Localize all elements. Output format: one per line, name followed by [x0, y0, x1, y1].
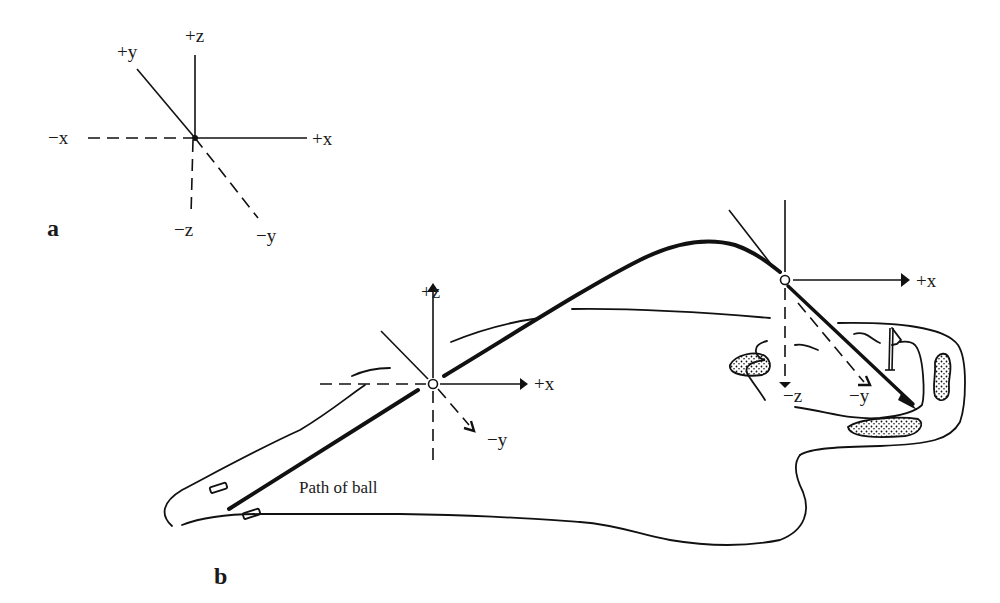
flag-icon [885, 328, 901, 370]
panel-label-a: a [47, 215, 59, 241]
label-neg-x: −x [48, 127, 69, 148]
bunker-right [934, 354, 951, 400]
launch-neg-y-arrowhead [464, 421, 474, 431]
launch-ball-origin [429, 380, 438, 389]
fairway-edge-upper-right [451, 318, 540, 342]
launch-label-pos-z: +z [421, 281, 440, 302]
golf-coordinate-diagram: +z +y −x +x −z −y a [0, 0, 1000, 603]
label-neg-y: −y [256, 225, 277, 246]
apex-axis-neg-y [798, 303, 864, 382]
launch-axis-neg-y [438, 389, 469, 425]
fairway-edge-far [572, 309, 770, 318]
label-neg-z: −z [174, 219, 193, 240]
launch-label-neg-y: −y [487, 429, 508, 450]
green-contour-2 [854, 333, 880, 343]
axis-neg-z [191, 140, 193, 215]
axis-pos-y [137, 69, 195, 138]
apex-pos-x-arrowhead [901, 273, 910, 287]
fairway-edge-upper-mid [352, 368, 390, 376]
apex-label-pos-x: +x [916, 270, 937, 291]
fairway-edge-lower [182, 455, 806, 545]
apex-label-neg-z: −z [783, 385, 802, 406]
label-pos-z: +z [185, 25, 204, 46]
axis-neg-y [195, 138, 258, 218]
label-pos-y: +y [117, 41, 138, 62]
launch-label-pos-x: +x [534, 373, 555, 394]
launch-axis-pos-y [381, 331, 428, 379]
tee-marker-left [209, 482, 227, 493]
label-pos-x: +x [312, 128, 333, 149]
origin-point [192, 135, 198, 141]
launch-pos-x-arrowhead [520, 378, 528, 390]
apex-ball-origin [781, 276, 790, 285]
green-contour-1 [795, 345, 818, 350]
bunker-bottom [848, 418, 921, 437]
golf-hole-outline [165, 309, 965, 545]
ball-path-arrowhead [898, 392, 917, 410]
apex-axis-tangent [729, 210, 774, 268]
fairway-edge-upper-left [165, 385, 365, 526]
bunker-left [730, 353, 770, 375]
panel-label-b: b [214, 563, 227, 589]
apex-label-neg-y: −y [849, 385, 870, 406]
bunkers [730, 353, 951, 437]
path-of-ball-caption: Path of ball [299, 478, 378, 497]
panel-a-axes [88, 55, 307, 218]
